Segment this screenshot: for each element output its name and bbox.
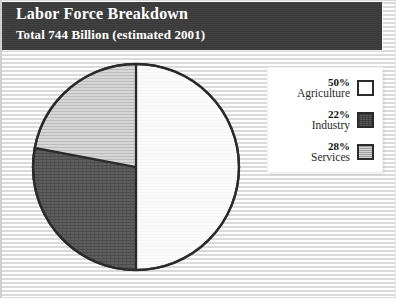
legend-item-label: Agriculture bbox=[297, 88, 350, 100]
legend-item-label: Industry bbox=[312, 120, 350, 132]
pie-slice-services bbox=[35, 64, 136, 167]
pie-chart bbox=[30, 60, 244, 276]
legend-item-agriculture[interactable]: 50% Agriculture bbox=[297, 77, 374, 100]
chart-subtitle: Total 744 Billion (estimated 2001) bbox=[16, 27, 205, 43]
pie-slice-industry bbox=[33, 148, 136, 270]
chart-header-bar: Labor Force Breakdown Total 744 Billion … bbox=[2, 2, 382, 50]
legend-item-services[interactable]: 28% Services bbox=[311, 141, 374, 164]
legend-item-text: 50% Agriculture bbox=[297, 77, 350, 100]
legend-item-label: Services bbox=[311, 152, 350, 164]
legend-swatch-industry-icon bbox=[357, 112, 374, 128]
pie-chart-svg bbox=[30, 60, 244, 276]
legend-item-text: 22% Industry bbox=[312, 109, 350, 132]
legend-item-industry[interactable]: 22% Industry bbox=[312, 109, 374, 132]
chart-figure: Labor Force Breakdown Total 744 Billion … bbox=[0, 0, 396, 298]
legend-item-text: 28% Services bbox=[311, 141, 350, 164]
legend-swatch-agriculture-icon bbox=[357, 80, 374, 96]
chart-title: Labor Force Breakdown bbox=[16, 5, 188, 23]
chart-legend: 50% Agriculture 22% Industry 28% Service… bbox=[268, 68, 382, 172]
legend-swatch-services-icon bbox=[357, 144, 374, 160]
pie-slice-agriculture bbox=[136, 64, 239, 270]
